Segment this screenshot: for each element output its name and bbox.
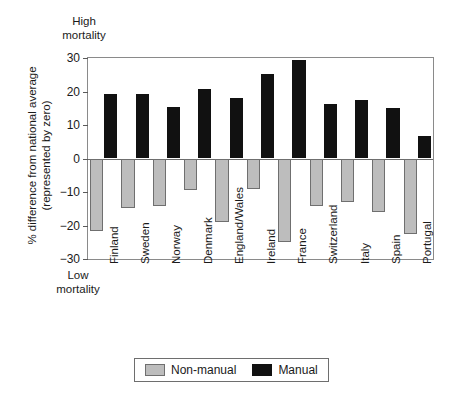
bar-manual-ireland [261,74,274,158]
x-axis-label-sweden: Sweden [140,222,152,264]
bar-manual-italy [355,100,368,158]
bar-manual-england-wales [230,98,243,158]
chart-legend: Non-manualManual [134,358,329,382]
y-tick-label: −30 [60,253,80,265]
bar-manual-portugal [418,136,431,158]
y-axis-title: % difference from national average (repr… [26,31,53,281]
x-axis-label-finland: Finland [109,226,121,264]
x-axis-label-norway: Norway [171,225,183,264]
bar-non-manual-spain [372,159,385,213]
legend-item-nonmanual: Non-manual [145,364,236,376]
bar-non-manual-france [278,159,291,242]
bar-manual-france [292,60,305,159]
bar-non-manual-england-wales [215,159,228,223]
bar-manual-finland [104,94,117,158]
x-axis-label-denmark: Denmark [203,217,215,264]
y-tick-mark [83,58,88,59]
mortality-bar-chart: High mortality Low mortality % differenc… [0,0,455,401]
bar-non-manual-norway [153,159,166,207]
y-tick-mark [83,192,88,193]
y-tick-label: 20 [67,86,80,98]
y-tick-mark [83,226,88,227]
x-axis-label-england-wales: England/Wales [234,187,246,264]
y-tick-label: 30 [67,52,80,64]
bar-manual-spain [386,108,399,159]
legend-label: Manual [278,364,317,376]
bar-manual-norway [167,107,180,159]
x-axis-label-portugal: Portugal [422,221,434,264]
bar-non-manual-denmark [184,159,197,191]
bar-manual-sweden [136,94,149,158]
bar-non-manual-switzerland [310,159,323,206]
bar-manual-denmark [198,89,211,159]
bar-non-manual-portugal [404,159,417,235]
x-axis-label-france: France [297,228,309,264]
bar-manual-switzerland [324,104,337,159]
y-tick-mark [83,92,88,93]
y-tick-mark [83,259,88,260]
y-tick-label: 0 [73,153,80,165]
y-tick-mark [83,159,88,160]
y-tick-label: −20 [60,220,80,232]
legend-item-manual: Manual [252,364,317,376]
x-axis-label-spain: Spain [391,235,403,264]
x-axis-label-switzerland: Switzerland [328,205,340,264]
bar-non-manual-ireland [247,159,260,190]
y-tick-label: −10 [60,186,80,198]
y-tick-label: 10 [67,119,80,131]
bar-non-manual-italy [341,159,354,203]
legend-swatch-manual [252,364,272,376]
bar-non-manual-finland [90,159,103,231]
bar-non-manual-sweden [121,159,134,209]
x-axis-label-ireland: Ireland [266,229,278,264]
legend-swatch-nonmanual [145,364,165,376]
legend-label: Non-manual [171,364,236,376]
x-axis-label-italy: Italy [360,243,372,264]
y-tick-mark [83,125,88,126]
